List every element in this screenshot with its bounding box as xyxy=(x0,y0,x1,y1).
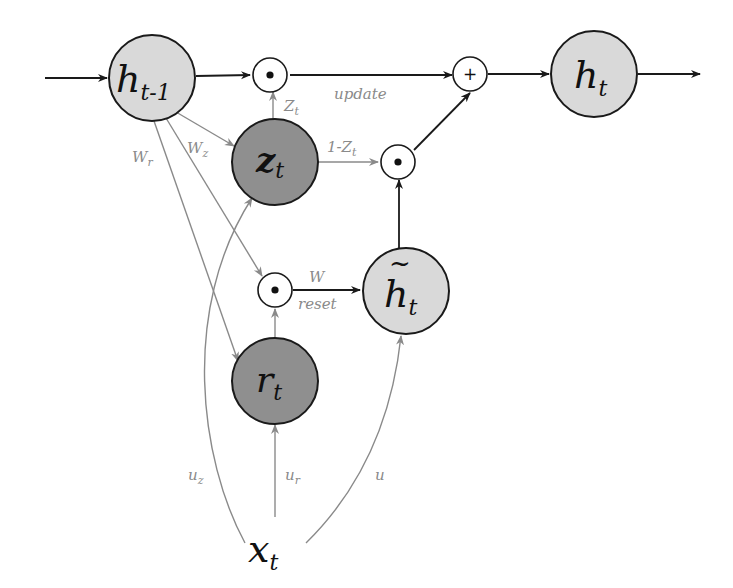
edge-h-prev-to-update-mul xyxy=(196,75,250,76)
r-t-sub: t xyxy=(273,380,282,405)
edge-candidate-mul-to-add xyxy=(414,93,470,150)
label-u-r: ur xyxy=(285,466,301,487)
label-one-minus-z: 1-Zt xyxy=(327,138,357,159)
h-tilde-sub: t xyxy=(408,295,417,320)
hadamard-dot-icon xyxy=(266,71,273,78)
op-reset-mul xyxy=(258,273,292,307)
label-z-t: Zt xyxy=(283,97,299,118)
h-tilde-main: h xyxy=(384,272,408,316)
op-candidate-mul xyxy=(381,145,415,179)
h-t-main: h xyxy=(574,53,598,97)
x-t-main: x xyxy=(248,527,269,571)
label-w: W xyxy=(309,268,326,286)
edge-h-prev-to-r xyxy=(154,121,238,361)
r-t-main: r xyxy=(256,359,275,400)
node-z-t: zt xyxy=(232,119,318,205)
plus-icon: + xyxy=(463,64,477,84)
node-h-prev: ht-1 xyxy=(109,35,195,121)
x-t-sub: t xyxy=(269,550,278,575)
label-w-z: Wz xyxy=(187,139,208,160)
node-h-tilde: ~ ht xyxy=(363,248,449,334)
h-prev-sub: t-1 xyxy=(140,80,170,105)
op-update-mul xyxy=(253,58,287,92)
op-add: + xyxy=(453,57,487,91)
z-t-sub: t xyxy=(275,158,284,183)
h-t-sub: t xyxy=(598,76,607,101)
gru-diagram: ht-1 ht zt ~ ht rt xt + Zt update xyxy=(0,0,733,588)
node-x-t: xt xyxy=(248,527,278,575)
node-r-t: rt xyxy=(232,338,318,424)
label-u: u xyxy=(375,466,385,484)
label-update: update xyxy=(334,85,387,103)
edge-h-prev-to-z xyxy=(176,112,234,146)
svg-text:xt: xt xyxy=(248,527,278,575)
h-prev-main: h xyxy=(116,57,140,101)
hadamard-dot-icon xyxy=(394,158,401,165)
hadamard-dot-icon xyxy=(271,286,278,293)
edge-x-to-h-tilde xyxy=(306,336,401,543)
label-u-z: uz xyxy=(188,466,204,487)
node-h-t: ht xyxy=(551,31,637,117)
label-w-r: Wr xyxy=(132,148,153,169)
label-reset: reset xyxy=(298,295,338,313)
z-t-main: z xyxy=(255,140,276,180)
